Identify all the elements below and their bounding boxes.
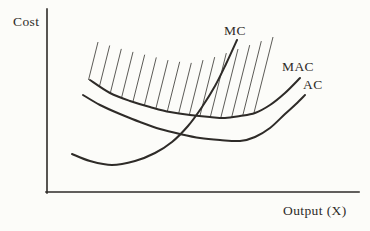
- mc-curve-label: MC: [224, 23, 246, 38]
- hatch-line: [232, 45, 250, 117]
- hatch-line: [89, 42, 99, 80]
- ac-curve-label: AC: [303, 77, 323, 92]
- hatch-line: [144, 57, 156, 105]
- hatch-line: [100, 46, 110, 87]
- hatch-lines: [89, 37, 274, 118]
- hatch-line: [110, 49, 121, 93]
- mac-curve: [90, 78, 300, 118]
- hatch-line: [221, 49, 238, 118]
- hatch-line: [122, 52, 133, 98]
- cost-axis-label: Cost: [13, 14, 39, 29]
- hatch-line: [133, 55, 145, 102]
- cost-curves-diagram: Cost MC MAC AC Output (X): [0, 0, 370, 231]
- hatch-line: [189, 60, 203, 115]
- hatch-line: [243, 41, 261, 115]
- hatch-line: [167, 62, 179, 112]
- mac-curve-label: MAC: [282, 59, 314, 74]
- hatch-line: [254, 37, 273, 113]
- hatch-line: [179, 63, 192, 113]
- diagram-canvas: Cost MC MAC AC Output (X): [0, 0, 370, 231]
- hatch-line: [156, 60, 168, 108]
- hatch-line: [210, 53, 226, 117]
- output-axis-label: Output (X): [283, 203, 347, 218]
